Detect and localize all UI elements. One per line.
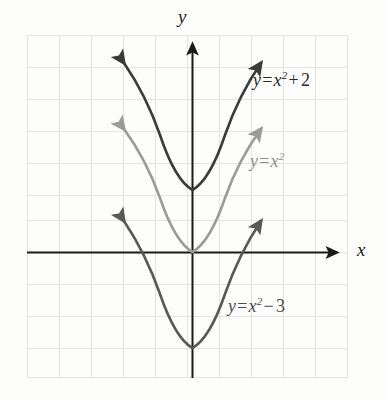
eq-exponent: 2 <box>282 69 288 81</box>
eq-equals: = <box>258 151 270 171</box>
eq-operator: − <box>263 296 275 316</box>
graph-canvas <box>0 0 386 401</box>
eq-lhs: y <box>250 151 258 171</box>
eq-operator: + <box>288 70 300 90</box>
equation-label-x-squared-minus-3: y=x2−3 <box>228 297 286 315</box>
eq-lhs: y <box>228 296 236 316</box>
eq-lhs: y <box>253 70 261 90</box>
equation-label-x-squared: y=x2 <box>250 152 285 170</box>
eq-constant: 2 <box>300 70 311 90</box>
eq-constant: 3 <box>275 296 286 316</box>
eq-base: x <box>274 70 282 90</box>
eq-base: x <box>249 296 257 316</box>
eq-base: x <box>271 151 279 171</box>
parabola-graph-figure: y x y=x2+2 y=x2 y=x2−3 <box>0 0 386 401</box>
eq-equals: = <box>261 70 273 90</box>
x-axis-label: x <box>357 240 365 259</box>
equation-label-x-squared-plus-2: y=x2+2 <box>253 71 311 89</box>
eq-exponent: 2 <box>279 150 285 162</box>
y-axis-label: y <box>178 7 186 26</box>
axis-lines <box>27 44 337 378</box>
eq-exponent: 2 <box>257 295 263 307</box>
eq-equals: = <box>236 296 248 316</box>
